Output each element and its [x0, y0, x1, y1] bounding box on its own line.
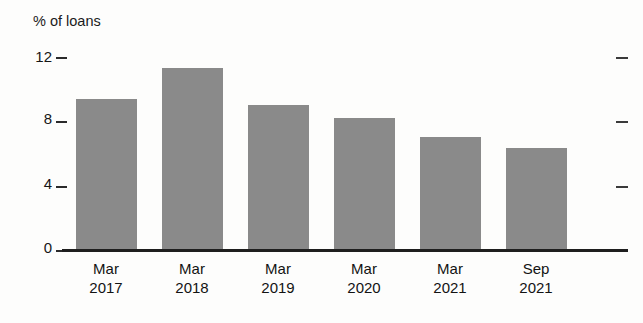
x-tick-month-3: Mar — [351, 260, 377, 277]
y-tick-mark-8 — [56, 121, 67, 123]
x-tick-label-mar-2020: Mar 2020 — [321, 259, 407, 297]
x-tick-month-4: Mar — [437, 260, 463, 277]
x-tick-month-5: Sep — [523, 260, 550, 277]
right-tick-mark-4 — [616, 186, 628, 188]
x-tick-year-3: 2020 — [321, 278, 407, 297]
bar-mar-2018 — [162, 68, 223, 249]
bar-mar-2020 — [334, 118, 395, 249]
y-tick-label-4: 4 — [18, 175, 52, 192]
x-tick-label-mar-2018: Mar 2018 — [149, 259, 235, 297]
x-tick-label-mar-2017: Mar 2017 — [63, 259, 149, 297]
x-tick-label-mar-2019: Mar 2019 — [235, 259, 321, 297]
x-tick-month-0: Mar — [93, 260, 119, 277]
x-tick-label-sep-2021: Sep 2021 — [493, 259, 579, 297]
bar-mar-2017 — [76, 99, 137, 249]
x-tick-month-2: Mar — [265, 260, 291, 277]
right-tick-mark-8 — [616, 121, 628, 123]
bar-sep-2021 — [506, 148, 567, 249]
x-tick-year-1: 2018 — [149, 278, 235, 297]
y-tick-label-8: 8 — [18, 110, 52, 127]
plot-area: 12 8 4 0 Mar 2017 Mar 2018 Mar — [0, 0, 643, 323]
right-tick-mark-12 — [616, 57, 628, 59]
y-tick-label-12: 12 — [18, 48, 52, 65]
x-tick-year-0: 2017 — [63, 278, 149, 297]
x-tick-year-4: 2021 — [407, 278, 493, 297]
x-tick-year-2: 2019 — [235, 278, 321, 297]
y-tick-mark-12 — [56, 57, 67, 59]
bar-mar-2021 — [420, 137, 481, 249]
x-tick-label-mar-2021: Mar 2021 — [407, 259, 493, 297]
bar-mar-2019 — [248, 105, 309, 249]
y-tick-mark-4 — [56, 186, 67, 188]
x-tick-year-5: 2021 — [493, 278, 579, 297]
bar-chart-figure: % of loans 12 8 4 0 Mar 2017 Mar — [0, 0, 643, 323]
x-tick-month-1: Mar — [179, 260, 205, 277]
x-axis-line — [62, 249, 628, 252]
y-tick-label-0: 0 — [18, 239, 52, 256]
